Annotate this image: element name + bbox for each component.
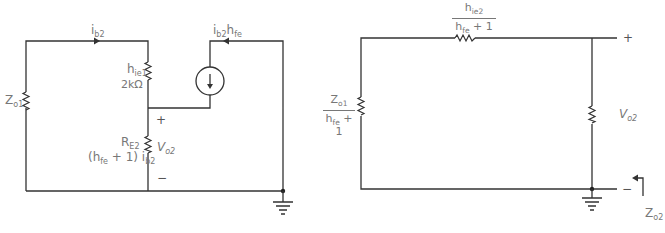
plus-sign-right: + xyxy=(623,32,633,44)
left-resistor-label: Zo1 hfe + 1 xyxy=(323,94,355,137)
h-ie1-label: hie1 xyxy=(127,63,147,78)
right-circuit xyxy=(358,35,643,210)
plus-sign: + xyxy=(156,114,166,126)
right-left-wire xyxy=(361,116,617,189)
z-o1-label: Zo1 xyxy=(5,94,23,109)
minus-sign-right: − xyxy=(622,183,632,195)
ground-icon xyxy=(582,189,602,210)
z-o1-resistor xyxy=(23,92,29,110)
v-o2-label-left: Vo2 xyxy=(157,141,175,156)
current-label-ib2: ib2 xyxy=(91,24,105,39)
h-ie1-value: 2kΩ xyxy=(121,79,143,90)
top-resistor xyxy=(455,35,475,41)
source-label: ib2hfe xyxy=(213,24,242,39)
r-e2-label: RE2 xyxy=(121,136,140,151)
minus-sign: − xyxy=(157,172,167,184)
v-o2-resistor xyxy=(589,106,595,123)
top-resistor-label: hie2 hfe + 1 xyxy=(452,2,496,34)
z-o2-arrow-icon xyxy=(632,175,638,182)
left-resistor xyxy=(358,97,364,115)
source-arrow-icon xyxy=(207,84,213,89)
ground-icon xyxy=(273,191,293,214)
v-o2-label-right: Vo2 xyxy=(619,108,637,123)
right-top-wire xyxy=(361,38,617,97)
r-e2-current-label: (hfe + 1) ib2 xyxy=(88,151,155,166)
z-o2-label: Zo2 xyxy=(645,207,663,222)
middle-wire xyxy=(26,41,283,191)
